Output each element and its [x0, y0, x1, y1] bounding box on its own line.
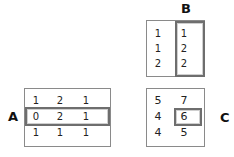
- matrix-a-cell: 0: [30, 111, 42, 123]
- matrix-b-cell: 2: [178, 43, 190, 55]
- matrix-c-cell: 7: [178, 95, 190, 107]
- matrix-c-cell: 4: [152, 111, 164, 123]
- matrix-a-cell: 1: [80, 95, 92, 107]
- matrix-a-cell: 2: [54, 95, 66, 107]
- matrix-b-cell: 1: [178, 28, 190, 40]
- matrix-c-cell: 5: [178, 127, 190, 139]
- matrix-a-cell: 1: [80, 111, 92, 123]
- label-a: A: [8, 109, 18, 124]
- label-c: C: [220, 110, 230, 125]
- matrix-c-cell: 4: [152, 127, 164, 139]
- matrix-c-cell: 5: [152, 95, 164, 107]
- matrix-b-cell: 2: [178, 58, 190, 70]
- matrix-a-cell: 2: [54, 111, 66, 123]
- matrix-a-cell: 1: [54, 127, 66, 139]
- matrix-a-cell: 1: [80, 127, 92, 139]
- matrix-b-cell: 1: [152, 28, 164, 40]
- matrix-a-cell: 1: [30, 127, 42, 139]
- matrix-a-cell: 1: [30, 95, 42, 107]
- matrix-b-cell: 1: [152, 43, 164, 55]
- matrix-c-cell: 6: [178, 111, 190, 123]
- label-b: B: [181, 1, 191, 16]
- matrix-b-cell: 2: [152, 58, 164, 70]
